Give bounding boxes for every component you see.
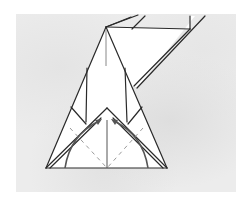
origami-diagram: [0, 0, 248, 197]
